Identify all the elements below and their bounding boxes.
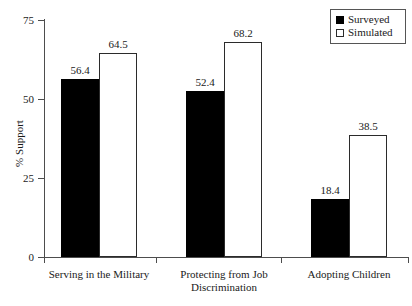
y-tick-mark-25 bbox=[38, 178, 44, 179]
legend-item-surveyed: Surveyed bbox=[336, 13, 400, 26]
x-category-label-adopting-children: Adopting Children bbox=[279, 268, 412, 281]
y-tick-label-0: 0 bbox=[4, 252, 34, 263]
bar-chart: % Support 75 50 25 0 56.4 64.5 Serving i… bbox=[0, 0, 412, 306]
y-tick-label-50: 50 bbox=[4, 94, 34, 105]
legend-label-simulated: Simulated bbox=[348, 26, 393, 39]
legend-swatch-open-square-icon bbox=[336, 29, 344, 37]
bar-value-label-38-5: 38.5 bbox=[349, 121, 387, 132]
legend-label-surveyed: Surveyed bbox=[348, 13, 390, 26]
y-tick-label-25: 25 bbox=[4, 173, 34, 184]
chart-legend: Surveyed Simulated bbox=[330, 9, 406, 44]
bar-value-label-64-5: 64.5 bbox=[99, 39, 137, 50]
bar-simulated-serving-in-the-military bbox=[99, 53, 137, 257]
bar-value-label-52-4: 52.4 bbox=[186, 77, 224, 88]
bar-value-label-18-4: 18.4 bbox=[311, 185, 349, 196]
bar-surveyed-serving-in-the-military bbox=[61, 79, 99, 257]
bar-value-label-56-4: 56.4 bbox=[61, 65, 99, 76]
bar-value-label-68-2: 68.2 bbox=[224, 28, 262, 39]
legend-item-simulated: Simulated bbox=[336, 26, 400, 39]
legend-swatch-filled-square-icon bbox=[336, 16, 344, 24]
x-axis-line bbox=[44, 257, 409, 258]
x-category-label-protecting-from-job-discrimination: Protecting from Job Discrimination bbox=[154, 268, 294, 294]
x-tick-mark-end bbox=[408, 258, 409, 263]
y-tick-mark-75 bbox=[38, 20, 44, 21]
y-axis-line bbox=[44, 19, 45, 258]
bar-simulated-adopting-children bbox=[349, 135, 387, 257]
x-category-label-serving-in-the-military: Serving in the Military bbox=[29, 268, 169, 281]
bar-simulated-protecting-from-job-discrimination bbox=[224, 42, 262, 257]
y-tick-label-75: 75 bbox=[4, 15, 34, 26]
x-tick-mark-2 bbox=[281, 258, 282, 263]
x-tick-mark-start bbox=[44, 258, 45, 263]
bar-surveyed-protecting-from-job-discrimination bbox=[186, 91, 224, 257]
y-tick-mark-50 bbox=[38, 99, 44, 100]
bar-surveyed-adopting-children bbox=[311, 199, 349, 257]
x-tick-mark-1 bbox=[156, 258, 157, 263]
